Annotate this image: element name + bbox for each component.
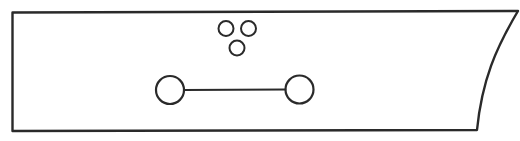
background [0,0,520,141]
hole-connector-line [184,90,286,91]
blade-diagram [0,0,520,141]
